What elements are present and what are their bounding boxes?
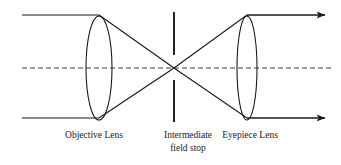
diagram-canvas: Objective Lens Intermediate field stop E… [0,0,341,165]
objective-lens-label: Objective Lens [65,130,123,140]
field-stop-label-line1: Intermediate [164,130,212,140]
field-stop-label-line2: field stop [170,143,206,153]
diagram-background [0,0,341,165]
eyepiece-lens-label: Eyepiece Lens [222,130,278,140]
optical-diagram: Objective Lens Intermediate field stop E… [0,0,341,165]
